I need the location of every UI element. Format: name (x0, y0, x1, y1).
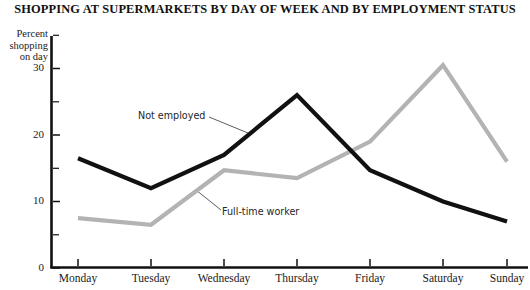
chart-plot-area (0, 0, 530, 290)
y-axis-label: Percent shopping on day (6, 28, 48, 63)
y-tick-label-20: 20 (10, 128, 44, 140)
y-axis-label-line-2: shopping (6, 40, 48, 52)
leader-line-full-time-worker (196, 190, 221, 210)
series-annotation-full-time-worker: Full-time worker (222, 206, 299, 217)
y-tick-label-30: 30 (10, 61, 44, 73)
chart-title: SHOPPING AT SUPERMARKETS BY DAY OF WEEK … (0, 2, 530, 17)
y-axis-label-line-1: Percent (6, 28, 48, 40)
x-tick-label-sunday: Sunday (457, 272, 530, 284)
leader-line-not-employed (209, 117, 248, 133)
x-axis-ticks (78, 259, 507, 266)
series-annotation-not-employed: Not employed (138, 110, 205, 121)
y-tick-label-10: 10 (10, 194, 44, 206)
chart-figure: SHOPPING AT SUPERMARKETS BY DAY OF WEEK … (0, 0, 530, 290)
